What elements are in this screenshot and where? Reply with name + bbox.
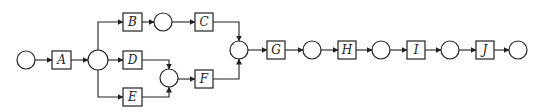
activity-a: A: [52, 51, 71, 69]
activity-j: J: [476, 41, 494, 59]
split-node: [88, 50, 108, 70]
activity-b: B: [123, 13, 142, 31]
edge-split-b: [98, 22, 123, 50]
flow-diagram: A B C D E F G H: [0, 0, 538, 112]
event-node-4: [160, 69, 178, 87]
edge-e-n4: [142, 87, 169, 97]
edge-d-n4: [142, 60, 169, 69]
activity-h: H: [338, 41, 356, 59]
activity-label: B: [127, 15, 137, 29]
activity-label: D: [127, 53, 138, 67]
edge-split-e: [98, 70, 123, 97]
edge-c-merge: [213, 22, 239, 41]
activity-label: C: [199, 15, 208, 29]
activity-label: A: [56, 53, 66, 67]
activity-i: I: [407, 41, 425, 59]
activity-label: H: [341, 43, 353, 57]
event-node-8: [441, 41, 459, 59]
start-node: [17, 51, 35, 69]
activity-label: G: [271, 43, 281, 57]
activity-e: E: [123, 88, 142, 106]
activity-d: D: [123, 51, 142, 69]
edge-f-merge: [213, 59, 239, 79]
merge-node: [230, 41, 248, 59]
event-node-6: [303, 41, 321, 59]
event-node-3: [154, 13, 172, 31]
event-node-7: [372, 41, 390, 59]
activity-label: F: [199, 72, 209, 86]
activity-g: G: [267, 41, 285, 59]
activity-c: C: [195, 13, 213, 31]
activity-f: F: [195, 70, 213, 88]
activity-label: I: [413, 43, 419, 57]
activity-label: E: [127, 90, 137, 104]
end-node: [509, 41, 527, 59]
